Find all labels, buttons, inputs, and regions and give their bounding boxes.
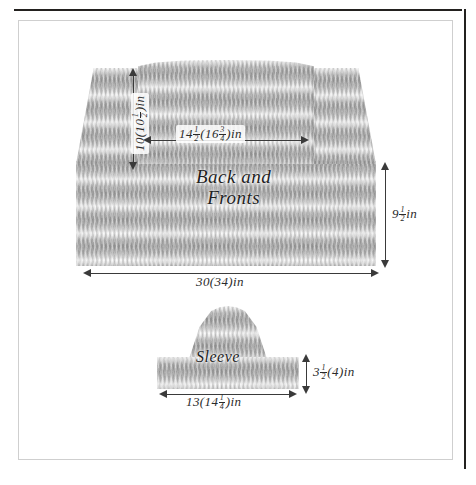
pattern-schematic-page: Back and Fronts 10(1012)in 1412(1634)in … — [0, 0, 476, 485]
sleeve-piece-label-text: Sleeve — [196, 348, 240, 365]
dimension-armhole-depth-label: 10(1012)in — [131, 93, 149, 154]
body-piece-label-line2: Fronts — [207, 187, 260, 208]
dimension-total-width-label: 30(34)in — [196, 274, 244, 290]
body-piece-centre-panel — [138, 60, 314, 164]
page-rule-right — [464, 9, 466, 469]
dimension-sleeve-width-label: 13(1414)in — [186, 394, 241, 410]
dimension-sleeve-depth-label: 312(4)in — [313, 364, 355, 380]
sleeve-piece-label: Sleeve — [196, 348, 240, 366]
dimension-upper-width-label: 1412(1634)in — [176, 125, 245, 143]
body-piece-label-line1: Back and — [196, 166, 271, 187]
dimension-lower-depth-label: 912in — [392, 206, 417, 222]
body-piece-label: Back and Fronts — [196, 166, 271, 209]
page-rule-top — [14, 9, 462, 11]
